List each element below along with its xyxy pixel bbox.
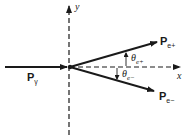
theta-e-plus-label: θe+	[131, 53, 144, 66]
positron-label: Pe+	[160, 36, 175, 49]
vertex-dot	[68, 65, 72, 69]
photon-label: Pγ	[27, 72, 38, 85]
x-axis-label: x	[177, 71, 181, 81]
y-axis-label: y	[75, 2, 79, 12]
electron-momentum-arrow	[70, 67, 154, 91]
diagram-canvas	[0, 0, 185, 138]
theta-e-minus-label: θe−	[122, 69, 135, 82]
electron-label: Pe−	[159, 91, 174, 104]
